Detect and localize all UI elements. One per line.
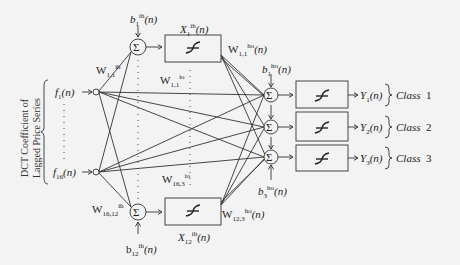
output-bias-label-bottom: b3ho(n) [258,182,287,202]
hidden-bottom-sum-symbol: Σ [133,206,139,218]
class-label-2: Class 2 [396,121,431,133]
neural-network-diagram: DCT Coefficient of Lagged Price Series f… [0,0,460,265]
hidden-top-output-weight-label: W1,1ho(n) [228,40,267,60]
class-label-3: Class 3 [396,152,431,164]
output-label-y3: Y3(n) [360,152,382,169]
hidden-top-bias-label: b1ih(n) [130,10,157,30]
hidden-top-sum-symbol: Σ [133,41,139,53]
output-sum-symbol-1: Σ [266,89,272,101]
hidden-bottom-input-weight-label: W16,12ih [92,200,124,220]
input-axis-label-line2: Lagged Price Series [31,73,43,203]
hidden-top-output-label: X1ih(n) [180,20,209,40]
output-sum-symbol-3: Σ [266,151,272,163]
input-label-f16: f16(n) [53,166,76,183]
input-axis-label-line1: DCT Coefficient of [19,73,31,203]
output-bias-label-top: b1ho(n) [262,60,291,80]
direct-weight-label-top: W1,1io [160,71,185,91]
input-axis-label: DCT Coefficient of Lagged Price Series [19,73,43,203]
hidden-top-input-weight-label: W1,1ih [96,61,121,81]
hidden-bottom-bias-label: b12ih(n) [126,240,157,260]
output-label-y1: Y1(n) [360,89,382,106]
hidden-bottom-output-label: X12ih(n) [178,228,210,248]
direct-weight-label-bottom: W16,3io [162,170,190,190]
output-sum-symbol-2: Σ [266,121,272,133]
hidden-bottom-output-weight-label: W12,3ho(n) [222,205,264,225]
output-label-y2: Y2(n) [360,121,382,138]
input-label-f1: f1(n) [55,86,74,103]
class-label-1: Class 1 [396,89,431,101]
